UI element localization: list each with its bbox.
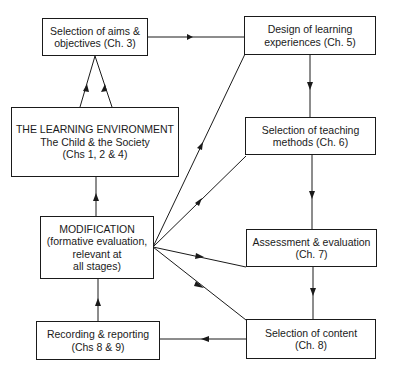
node-label: The Child & the Society [40, 136, 150, 149]
node-label: Assessment & evaluation [253, 236, 371, 249]
arrow-down [310, 288, 316, 296]
node-label: (Ch. 8) [295, 339, 327, 352]
node-label: Design of learning [268, 23, 353, 36]
node-title: MODIFICATION [59, 223, 135, 236]
arrow-up [101, 84, 107, 92]
node-label: (formative evaluation, [47, 235, 147, 248]
edge-environment-aims-1 [80, 56, 95, 107]
arrow-up [93, 193, 99, 201]
node-label: experiences (Ch. 5) [264, 36, 356, 49]
diagram-connectors [0, 0, 393, 374]
arrow-to-modification [194, 281, 204, 288]
node-label: relevant at [72, 248, 121, 261]
node-label: (Ch. 7) [295, 248, 327, 261]
node-methods: Selection of teaching methods (Ch. 6) [245, 117, 376, 155]
node-label: objectives (Ch. 3) [54, 37, 136, 50]
arrow-to-modification [197, 142, 203, 150]
node-label: Selection of content [265, 327, 357, 340]
node-content: Selection of content (Ch. 8) [246, 319, 376, 359]
node-aims: Selection of aims & objectives (Ch. 3) [42, 18, 148, 56]
node-environment: THE LEARNING ENVIRONMENT The Child & the… [11, 107, 179, 177]
node-label: methods (Ch. 6) [273, 136, 348, 149]
node-label: Selection of teaching [262, 124, 359, 137]
node-design: Design of learning experiences (Ch. 5) [244, 16, 376, 55]
arrow-left [201, 336, 209, 342]
node-label: (Chs 8 & 9) [71, 341, 124, 354]
node-assessment: Assessment & evaluation (Ch. 7) [246, 229, 377, 267]
node-label: Selection of aims & [50, 25, 140, 38]
node-label: Recording & reporting [47, 328, 149, 341]
node-modification: MODIFICATION (formative evaluation, rele… [40, 216, 154, 279]
arrow-down [309, 191, 315, 199]
arrow-down [307, 82, 313, 90]
node-title: THE LEARNING ENVIRONMENT [16, 123, 174, 136]
edge-environment-aims-2 [95, 56, 112, 107]
node-recording: Recording & reporting (Chs 8 & 9) [36, 321, 160, 360]
arrow-up [95, 298, 101, 306]
node-label: (Chs 1, 2 & 4) [63, 148, 128, 161]
node-label: all stages) [73, 260, 121, 273]
